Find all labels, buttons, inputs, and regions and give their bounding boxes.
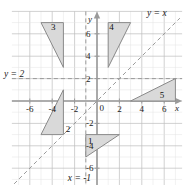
line-label-y-equals-x: y = x bbox=[147, 9, 167, 19]
shape-label-triangle-5: 5 bbox=[160, 90, 165, 99]
y-tick-label: -2 bbox=[86, 119, 94, 128]
x-tick-label: -2 bbox=[71, 105, 79, 114]
x-axis-label: x bbox=[175, 104, 179, 113]
shape-label-triangle-3: 3 bbox=[51, 23, 56, 32]
coordinate-plane-figure: y x y = x y = 2 x = -1 -6-4-20246642-2-4… bbox=[0, 0, 192, 188]
shape-label-triangle-4: 4 bbox=[109, 23, 114, 32]
y-tick-label: 2 bbox=[86, 74, 91, 83]
y-tick-label: 4 bbox=[86, 52, 91, 61]
y-tick-label: 6 bbox=[86, 29, 91, 38]
shape-label-triangle-1: 1 bbox=[88, 137, 93, 146]
x-tick-label: -6 bbox=[26, 105, 34, 114]
shape-label-triangle-2: 2 bbox=[66, 125, 71, 134]
x-tick-label: -4 bbox=[48, 105, 56, 114]
x-tick-label: 4 bbox=[140, 105, 145, 114]
line-label-y-equals-2: y = 2 bbox=[4, 70, 24, 80]
y-axis-label: y bbox=[88, 15, 92, 24]
origin-label: 0 bbox=[100, 104, 105, 113]
x-tick-label: 6 bbox=[162, 105, 167, 114]
line-label-x-equals-minus-1: x = -1 bbox=[68, 174, 91, 184]
x-tick-label: 2 bbox=[117, 105, 122, 114]
y-tick-label: -6 bbox=[86, 164, 94, 173]
